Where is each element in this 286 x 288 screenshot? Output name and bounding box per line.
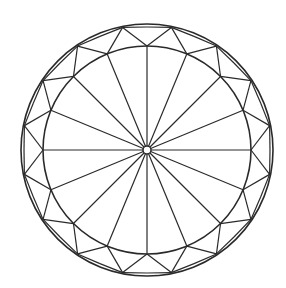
ring-facet-edge (187, 246, 217, 254)
radial-line (73, 76, 147, 150)
ring-facet-edge (73, 224, 77, 254)
ring-facet-edge (123, 254, 147, 273)
girdle-facet-edge (60, 46, 78, 63)
ring-facet-edge (243, 81, 251, 111)
ring-facet-edge (43, 219, 73, 223)
ring-facet-edge (43, 76, 73, 80)
girdle-facet-edge (216, 237, 234, 254)
ring-facet-edge (73, 46, 77, 76)
ring-facet-edge (78, 46, 108, 54)
ring-facet-edge (251, 126, 270, 150)
radial-line (73, 150, 147, 224)
radial-line (147, 76, 221, 150)
ring-facet-edge (43, 81, 51, 111)
ring-facet-edge (43, 190, 51, 220)
ring-facet-edge (123, 27, 147, 46)
girdle-facet-edge (234, 63, 251, 81)
girdle-facet-edge (43, 63, 60, 81)
ring-facet-edge (243, 190, 251, 220)
ring-facet-edge (147, 27, 171, 46)
ring-facet-edge (24, 126, 43, 150)
ring-facet-edge (24, 150, 43, 174)
ring-facet-edge (187, 46, 217, 54)
ring-facet-edge (251, 150, 270, 174)
ring-facet-edge (221, 76, 251, 80)
girdle-facet-edge (234, 219, 251, 237)
ring-facet-edge (216, 46, 220, 76)
girdle-facet-edge (216, 46, 234, 63)
radial-line (147, 150, 221, 224)
girdle-facet-edge (43, 219, 60, 237)
diagram-canvas (0, 0, 286, 288)
gem-facet-diagram (0, 0, 286, 288)
ring-facet-edge (216, 224, 220, 254)
ring-facet-edge (221, 219, 251, 223)
girdle-facet-edge (60, 237, 78, 254)
center-culet-circle (143, 146, 151, 154)
ring-facet-edge (78, 246, 108, 254)
ring-facet-edge (147, 254, 171, 273)
